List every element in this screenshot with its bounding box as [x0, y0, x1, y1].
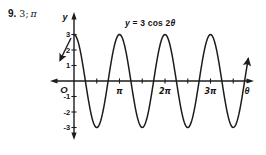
x-tick-label: 2π	[159, 87, 172, 96]
figure-page: 9.3;π π2π3π 321-1-2-3 y = 3 cos 2θ y θ O	[0, 0, 266, 155]
y-axis-bottom-arrow-icon	[71, 133, 76, 141]
title-equation-body: = 3 cos 2	[130, 18, 171, 28]
title-theta-symbol: θ	[170, 18, 175, 28]
y-axis-label: y	[61, 12, 68, 22]
graph-title: y = 3 cos 2θ	[124, 18, 175, 28]
y-axis-top-arrow-icon	[71, 12, 76, 20]
origin-label: O	[60, 84, 68, 95]
x-tick-label: π	[116, 87, 123, 96]
x-axis-label: θ	[244, 86, 249, 96]
y-tick-label: 3	[66, 30, 70, 39]
x-axis-left-arrow-icon	[50, 78, 58, 83]
x-axis-right-arrow-icon	[247, 78, 255, 83]
y-tick-label: -2	[64, 108, 71, 117]
x-tick-label: 3π	[205, 87, 218, 96]
y-tick-label: 1	[66, 61, 70, 70]
graph-canvas: π2π3π 321-1-2-3 y = 3 cos 2θ y θ O	[0, 0, 266, 155]
y-tick-label: -3	[64, 123, 71, 132]
